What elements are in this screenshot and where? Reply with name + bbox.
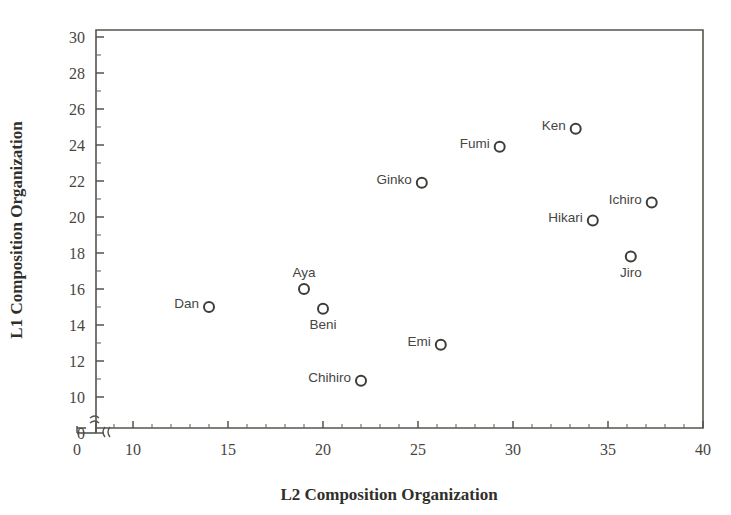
y-tick-label: 12 <box>69 353 85 370</box>
y-tick-label: 0 <box>77 425 85 442</box>
y-tick-label: 10 <box>69 389 85 406</box>
data-point-label: Ginko <box>377 172 412 187</box>
data-point-label: Ken <box>542 118 566 133</box>
y-tick-label: 14 <box>69 317 85 334</box>
x-tick-label: 10 <box>125 441 141 458</box>
x-axis-title: L2 Composition Organization <box>280 485 498 504</box>
data-point-label: Hikari <box>548 210 583 225</box>
chart-canvas: 010152025303540 01012141618202224262830 … <box>0 0 731 515</box>
data-point-label: Fumi <box>460 136 490 151</box>
scatter-chart: 010152025303540 01012141618202224262830 … <box>0 0 731 515</box>
y-tick-label: 24 <box>69 137 85 154</box>
y-tick-label: 30 <box>69 29 85 46</box>
data-point-label: Jiro <box>620 265 642 280</box>
y-axis-title: L1 Composition Organization <box>7 121 26 339</box>
data-point-label: Aya <box>292 265 316 280</box>
x-tick-label: 15 <box>220 441 236 458</box>
x-tick-label: 25 <box>410 441 426 458</box>
y-tick-label: 22 <box>69 173 85 190</box>
x-tick-label: 30 <box>505 441 521 458</box>
y-tick-label: 18 <box>69 245 85 262</box>
y-tick-label: 28 <box>69 65 85 82</box>
data-point-label: Dan <box>174 296 199 311</box>
data-point-label: Beni <box>309 317 336 332</box>
y-tick-label: 20 <box>69 209 85 226</box>
x-tick-label: 40 <box>695 441 711 458</box>
x-tick-label: 35 <box>600 441 616 458</box>
chart-background <box>0 0 731 515</box>
data-point-label: Emi <box>408 334 431 349</box>
data-point-label: Chihiro <box>308 370 351 385</box>
data-point-label: Ichiro <box>609 192 642 207</box>
y-tick-label: 26 <box>69 101 85 118</box>
x-tick-label: 20 <box>315 441 331 458</box>
y-tick-label: 16 <box>69 281 85 298</box>
x-tick-label: 0 <box>73 441 81 458</box>
